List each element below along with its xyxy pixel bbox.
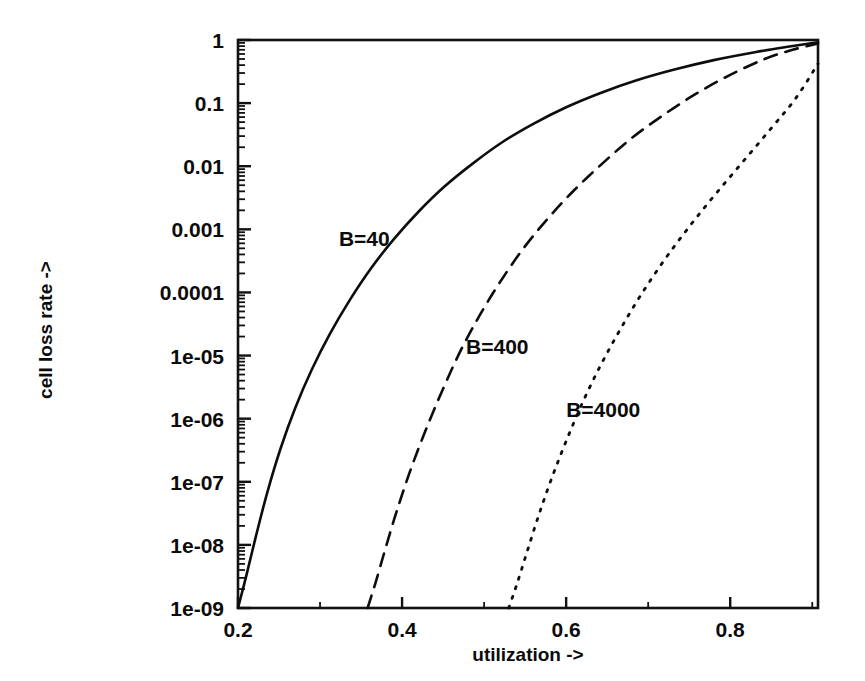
y-axis-tick-labels: 10.10.010.0010.00011e-051e-061e-071e-081… [160,29,225,620]
series-curve-b-400 [368,44,818,609]
figure-container: 0.20.40.60.8 10.10.010.0010.00011e-051e-… [0,0,865,681]
series-label-b-4000: B=4000 [566,398,640,421]
series-curve-b-4000 [509,64,818,608]
y-tick-label: 1e-08 [170,534,224,557]
y-tick-label: 0.001 [171,218,224,241]
y-axis-ticks [238,40,251,608]
series-curve-b-40 [238,42,818,608]
x-tick-label: 0.4 [387,618,417,641]
data-series-group [238,42,818,608]
x-tick-label: 0.6 [552,618,581,641]
y-tick-label: 0.01 [183,155,224,178]
y-tick-label: 1e-07 [170,471,224,494]
series-label-b-400: B=400 [466,335,528,358]
series-inline-labels: B=40B=400B=4000 [339,227,640,422]
y-tick-label: 1e-06 [170,408,224,431]
x-axis-title: utilization -> [472,644,583,665]
y-axis-title: cell loss rate -> [35,261,56,399]
plot-frame [238,40,818,608]
x-tick-label: 0.2 [223,618,252,641]
y-tick-label: 1e-09 [170,597,224,620]
x-axis-ticks [238,597,812,608]
y-tick-label: 1 [212,29,224,52]
y-tick-label: 0.1 [195,92,225,115]
y-tick-label: 1e-05 [170,345,224,368]
x-axis-tick-labels: 0.20.40.60.8 [223,618,745,641]
y-tick-label: 0.0001 [160,281,225,304]
chart-plot: 0.20.40.60.8 10.10.010.0010.00011e-051e-… [0,0,865,681]
series-label-b-40: B=40 [339,227,390,250]
x-tick-label: 0.8 [716,618,746,641]
